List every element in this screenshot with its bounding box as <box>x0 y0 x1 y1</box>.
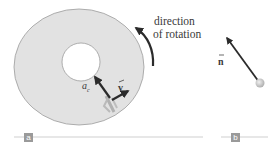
figure-canvas <box>0 0 271 152</box>
rotation-label-line1: direction <box>153 15 201 28</box>
rotation-label-line2: of rotation <box>153 28 201 41</box>
panel-a-tag: a <box>24 133 33 142</box>
rotation-label: direction of rotation <box>153 15 201 41</box>
normal-vector-arrow-icon <box>227 38 259 82</box>
ball <box>256 79 265 88</box>
rotating-disk <box>14 9 144 125</box>
normal-label: n <box>218 56 224 67</box>
acceleration-label: ac <box>82 80 90 96</box>
acceleration-subscript: c <box>87 87 90 93</box>
panel-b-tag: b <box>231 133 240 142</box>
velocity-label: v <box>118 82 123 93</box>
